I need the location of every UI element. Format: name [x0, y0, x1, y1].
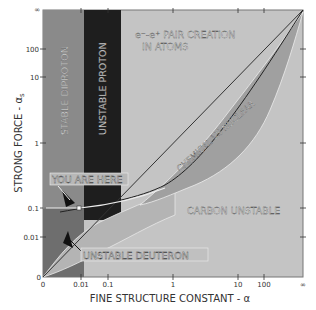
y-tick-10: 10	[30, 74, 39, 82]
x-tick-100: 100	[257, 281, 270, 289]
carbon-unstable-label: CARBON UNSTABLE	[187, 205, 280, 216]
you-are-here-marker	[77, 206, 81, 210]
y-tick-0.01: 0.01	[23, 234, 39, 242]
y-axis-label-subscript: s	[18, 93, 26, 97]
x-tick-0.1: 0.1	[102, 281, 113, 289]
x-tick-0: 0	[41, 281, 45, 289]
unstable-deuteron-label: UNSTABLE DEUTERON	[83, 250, 189, 261]
y-tick-0.1: 0.1	[28, 205, 39, 213]
pair-creation-label-line1: e⁻-e⁺ PAIR CREATION	[135, 29, 235, 40]
y-axis-label: STRONG FORCE - αs	[13, 93, 26, 193]
y-tick-100: 100	[26, 46, 39, 54]
y-tick-inf: ∞	[34, 6, 40, 14]
y-tick-1: 1	[35, 140, 39, 148]
you-are-here-label: YOU ARE HERE	[51, 174, 123, 185]
x-tick-inf: ∞	[300, 281, 306, 289]
x-tick-10: 10	[234, 281, 243, 289]
stable-diproton-label: STABLE DIPROTON	[59, 46, 70, 135]
y-axis-label-main: STRONG FORCE - α	[13, 97, 24, 193]
x-tick-0.01: 0.01	[73, 281, 89, 289]
parameter-space-diagram: STABLE DIPROTON UNSTABLE PROTON e⁻-e⁺ PA…	[0, 0, 316, 310]
x-axis-label: FINE STRUCTURE CONSTANT - α	[90, 293, 251, 304]
pair-creation-label-line2: IN ATOMS	[142, 41, 188, 52]
x-tick-1: 1	[171, 281, 175, 289]
y-axis-label-group: STRONG FORCE - αs	[13, 93, 26, 193]
unstable-proton-label: UNSTABLE PROTON	[97, 42, 108, 135]
